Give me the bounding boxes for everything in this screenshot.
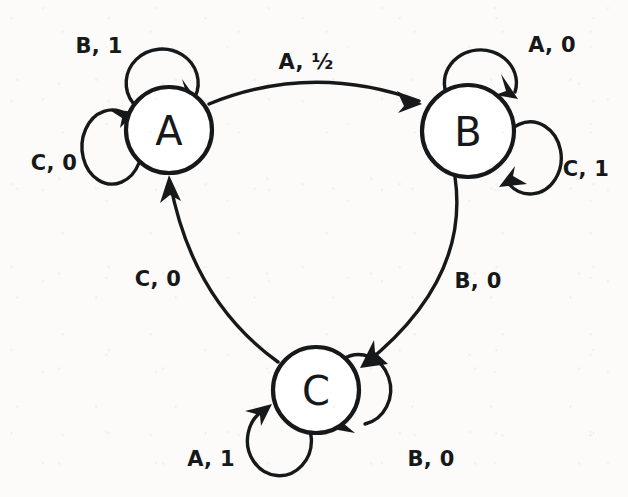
transition-a-to-b <box>209 82 422 113</box>
diagram-canvas: A B C A, ½ B, 0 C, 0 B, 1 C, 0 A, 0 C, 1… <box>0 0 628 497</box>
state-a-label: A <box>155 108 183 154</box>
edge-label-a-to-b: A, ½ <box>279 50 334 74</box>
edge-label-c-self-a1: A, 1 <box>187 447 235 471</box>
state-node-b[interactable]: B <box>422 85 514 177</box>
transition-c-to-a-path <box>170 182 278 362</box>
edge-label-a-self-b1: B, 1 <box>75 34 122 58</box>
self-loop-b-c1-arrowhead <box>499 166 527 187</box>
transition-c-to-a-arrowhead <box>160 175 181 203</box>
edge-label-b-to-c: B, 0 <box>454 269 501 293</box>
state-node-c[interactable]: C <box>273 347 359 433</box>
state-b-label: B <box>454 109 481 155</box>
transition-b-to-c <box>360 177 457 368</box>
edge-label-c-to-a: C, 0 <box>135 267 182 291</box>
state-node-a[interactable]: A <box>126 87 212 173</box>
state-machine-diagram: A B C A, ½ B, 0 C, 0 B, 1 C, 0 A, 0 C, 1… <box>0 0 628 497</box>
edge-label-a-self-c0: C, 0 <box>31 151 78 175</box>
edge-label-b-self-a0: A, 0 <box>528 33 576 57</box>
edge-label-b-self-c1: C, 1 <box>563 157 610 181</box>
state-c-label: C <box>302 368 330 414</box>
edge-label-c-self-b0: B, 0 <box>407 447 454 471</box>
transition-a-to-b-path <box>209 82 419 104</box>
transition-b-to-c-path <box>365 177 457 364</box>
